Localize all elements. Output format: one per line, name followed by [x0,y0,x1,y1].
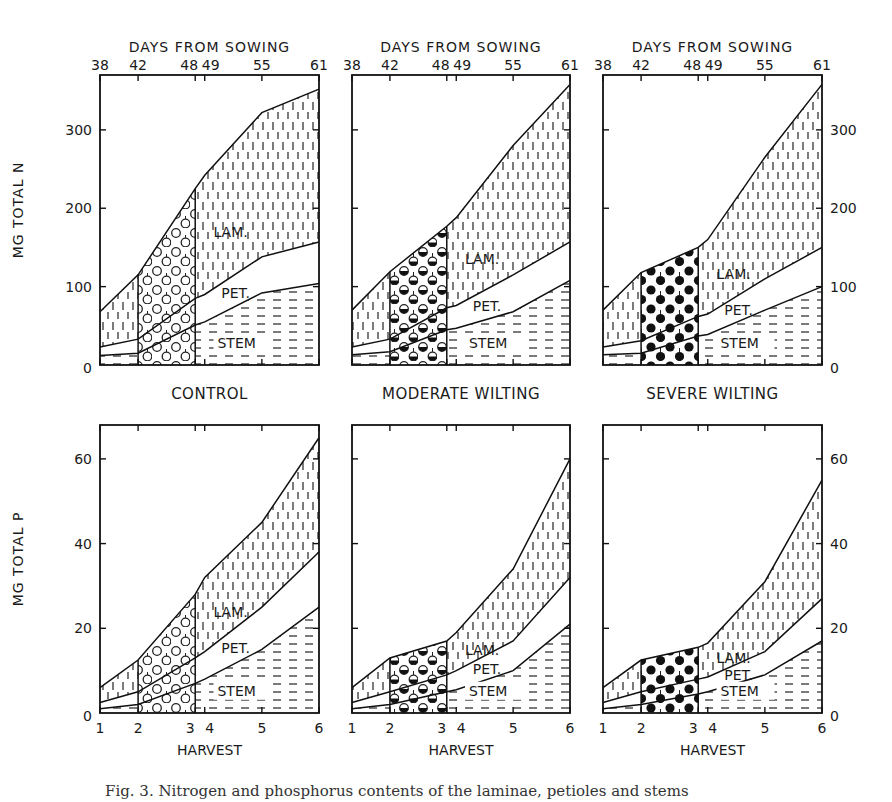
panel-p-control: LAM.PET.STEM123456HARVESTCONTROL0204060M… [10,385,324,758]
wilting-period-area [390,226,447,365]
label-petiole: PET. [221,285,250,301]
harvest-tick-label: 6 [315,720,324,736]
label-petiole: PET. [473,661,502,677]
harvest-tick-label: 5 [257,720,266,736]
top-axis-tick-label: 38 [594,57,612,73]
panel-p-severe-wilting: LAM.PET.STEM123456HARVESTSEVERE WILTING0… [599,385,848,758]
top-axis-tick-label: 48 [432,57,450,73]
label-stem: STEM [469,335,507,351]
y-tick-label: 40 [74,536,92,552]
top-axis-tick-label: 49 [202,57,220,73]
harvest-tick-label: 1 [96,720,105,736]
label-lamina: LAM. [465,642,499,658]
harvest-axis-title: HARVEST [680,742,745,758]
wilting-period-area [641,247,698,365]
y-tick-label: 100 [830,279,857,295]
top-axis-tick-label: 49 [453,57,471,73]
y-tick-label: 0 [83,708,92,724]
panels-layer: LAM.PET.STEMDAYS FROM SOWING384248495561… [10,39,857,758]
y-tick-label: 20 [830,620,848,636]
top-axis-tick-label: 48 [683,57,701,73]
top-axis-tick-label: 55 [253,57,271,73]
treatment-title: MODERATE WILTING [382,385,540,403]
y-tick-label: 0 [830,708,839,724]
label-lamina: LAM. [465,251,499,267]
label-lamina: LAM. [716,266,750,282]
harvest-tick-label: 2 [134,720,143,736]
y-tick-label: 60 [74,451,92,467]
harvest-tick-label: 4 [205,720,214,736]
treatment-title: CONTROL [171,385,248,403]
top-axis-tick-label: 38 [91,57,109,73]
top-axis-tick-label: 38 [343,57,361,73]
label-stem: STEM [720,335,758,351]
harvest-tick-label: 1 [348,720,357,736]
top-axis-tick-label: 49 [705,57,723,73]
y-tick-label: 200 [830,200,857,216]
panel-n-control: LAM.PET.STEMDAYS FROM SOWING384248495561… [10,39,328,376]
top-axis-tick-label: 42 [129,57,147,73]
harvest-tick-label: 3 [437,720,446,736]
y-tick-label: 40 [830,536,848,552]
panel-n-severe-wilting: LAM.PET.STEMDAYS FROM SOWING384248495561… [594,39,857,376]
y-tick-label: 0 [83,360,92,376]
label-stem: STEM [720,683,758,699]
wilting-period-area [138,594,195,713]
label-lamina: LAM. [213,224,247,240]
label-stem: STEM [469,683,507,699]
harvest-tick-label: 4 [457,720,466,736]
y-tick-label: 300 [65,122,92,138]
harvest-tick-label: 1 [599,720,608,736]
label-petiole: PET. [473,298,502,314]
harvest-tick-label: 5 [509,720,518,736]
y-tick-label: 300 [830,122,857,138]
harvest-tick-label: 6 [566,720,575,736]
treatment-title: SEVERE WILTING [646,385,778,403]
label-lamina: LAM. [213,604,247,620]
top-axis-title: DAYS FROM SOWING [380,39,541,55]
harvest-tick-label: 6 [818,720,827,736]
top-axis-tick-label: 42 [381,57,399,73]
y-axis-title: MG TOTAL N [10,162,26,259]
label-stem: STEM [217,335,255,351]
panel-p-moderate-wilting: LAM.PET.STEM123456HARVESTMODERATE WILTIN… [348,385,575,758]
y-tick-label: 0 [830,360,839,376]
y-axis-title: MG TOTAL P [10,512,26,607]
label-petiole: PET. [221,640,250,656]
top-axis-title: DAYS FROM SOWING [632,39,793,55]
top-axis-tick-label: 61 [310,57,328,73]
top-axis-title: DAYS FROM SOWING [129,39,290,55]
y-tick-label: 20 [74,620,92,636]
top-axis-tick-label: 61 [561,57,579,73]
harvest-tick-label: 4 [708,720,717,736]
y-tick-label: 100 [65,279,92,295]
label-petiole: PET. [724,302,753,318]
top-axis-tick-label: 61 [813,57,831,73]
top-axis-tick-label: 55 [504,57,522,73]
harvest-tick-label: 2 [637,720,646,736]
harvest-tick-label: 3 [689,720,698,736]
y-tick-label: 60 [830,451,848,467]
top-axis-tick-label: 48 [180,57,198,73]
top-axis-tick-label: 55 [756,57,774,73]
label-petiole: PET. [724,667,753,683]
y-tick-label: 200 [65,200,92,216]
harvest-tick-label: 3 [186,720,195,736]
label-stem: STEM [217,683,255,699]
harvest-axis-title: HARVEST [429,742,494,758]
figure-caption: Fig. 3. Nitrogen and phosphorus contents… [105,782,885,802]
harvest-tick-label: 5 [760,720,769,736]
harvest-axis-title: HARVEST [177,742,242,758]
top-axis-tick-label: 42 [632,57,650,73]
harvest-tick-label: 2 [385,720,394,736]
label-lamina: LAM. [716,650,750,666]
panel-n-moderate-wilting: LAM.PET.STEMDAYS FROM SOWING384248495561 [343,39,579,365]
